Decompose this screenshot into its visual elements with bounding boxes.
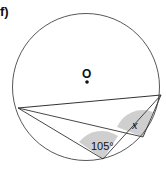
- circle-theorem-diagram: f) O 105° x: [0, 0, 166, 171]
- center-label: O: [82, 67, 91, 81]
- angle-label-105: 105°: [91, 140, 114, 152]
- angle-label-x: x: [131, 119, 138, 131]
- chord-AB: [18, 95, 161, 108]
- figure-label: f): [0, 4, 9, 19]
